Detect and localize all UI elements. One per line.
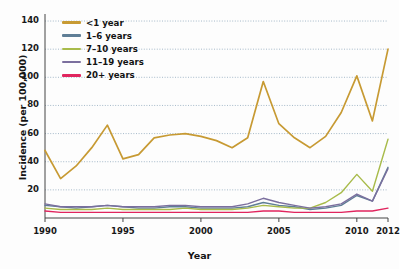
legend-item: <1 year bbox=[62, 16, 144, 29]
x-tick-label: 1990 bbox=[25, 226, 65, 236]
x-tick-label: 2005 bbox=[259, 226, 299, 236]
legend-label: 7–10 years bbox=[86, 44, 138, 54]
x-axis-title: Year bbox=[0, 250, 399, 261]
legend-item: 1–6 years bbox=[62, 29, 144, 42]
y-axis-title: Incidence (per 100,000) bbox=[17, 38, 28, 198]
series-line bbox=[45, 169, 388, 208]
legend-label: 1–6 years bbox=[86, 31, 132, 41]
legend-item: 20+ years bbox=[62, 69, 144, 82]
legend-label: <1 year bbox=[86, 18, 124, 28]
legend-swatch-icon bbox=[62, 48, 81, 51]
legend-label: 11–19 years bbox=[86, 57, 144, 67]
legend-swatch-icon bbox=[62, 34, 81, 37]
tick-marks bbox=[45, 218, 388, 222]
legend-swatch-icon bbox=[62, 74, 81, 77]
series-line bbox=[45, 167, 388, 209]
x-tick-label: 2012 bbox=[368, 226, 404, 236]
y-tick-label: 140 bbox=[9, 15, 39, 25]
legend-swatch-icon bbox=[62, 61, 81, 64]
legend-item: 7–10 years bbox=[62, 42, 144, 55]
legend-item: 11–19 years bbox=[62, 56, 144, 69]
series-line bbox=[45, 139, 388, 209]
legend-swatch-icon bbox=[62, 21, 81, 24]
x-tick-label: 1995 bbox=[103, 226, 143, 236]
legend-label: 20+ years bbox=[86, 70, 135, 80]
x-tick-label: 2000 bbox=[181, 226, 221, 236]
chart-legend: <1 year1–6 years7–10 years11–19 years20+… bbox=[62, 16, 144, 82]
